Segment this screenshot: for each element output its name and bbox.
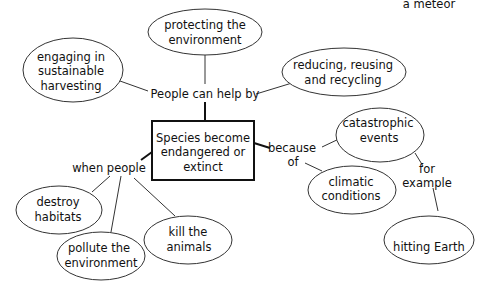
connector-reducing — [256, 83, 292, 94]
linker-for: for — [419, 162, 435, 176]
node-catastrophic-events: catastrophic events — [336, 108, 424, 162]
node-text: habitats — [35, 210, 82, 224]
node-text: pollute the — [68, 241, 130, 255]
node-text: hitting Earth — [393, 240, 465, 254]
node-text: sustainable — [38, 64, 104, 78]
node-kill-animals: kill the animals — [144, 216, 232, 264]
node-text: environment — [168, 33, 242, 47]
connector-because-to-climatic — [305, 163, 322, 171]
node-text: animals — [167, 240, 212, 254]
node-destroy-habitats: destroy habitats — [16, 186, 102, 234]
node-protecting-environment: protecting the environment — [148, 9, 262, 55]
connector-when-to-pollute — [111, 176, 121, 232]
linker-example: example — [402, 176, 452, 190]
linker-because: because — [268, 141, 316, 155]
node-text: events — [360, 131, 399, 145]
node-text: catastrophic — [342, 116, 413, 130]
central-text: extinct — [183, 160, 223, 174]
concept-map: protecting the environment engaging in s… — [0, 0, 489, 292]
linker-people-can-help-by: People can help by — [151, 87, 260, 101]
linker-when-people: when people — [72, 161, 146, 175]
node-text: kill the — [169, 225, 208, 239]
node-text: conditions — [321, 189, 380, 203]
connector-when-to-destroy — [92, 176, 110, 192]
node-text: climatic — [329, 175, 374, 189]
node-text: harvesting — [40, 79, 101, 93]
node-text: engaging in — [37, 50, 105, 64]
node-text: a meteor — [403, 0, 456, 11]
central-text: Species become — [156, 131, 250, 145]
connector-engaging — [120, 81, 148, 91]
connector-for-to-meteor — [433, 188, 438, 211]
node-text: environment — [64, 256, 138, 270]
connector-when-to-kill — [134, 178, 175, 216]
central-concept-box: Species become endangered or extinct — [152, 121, 254, 180]
node-text: destroy — [36, 195, 79, 209]
node-pollute-environment: pollute the environment — [57, 232, 145, 280]
linker-of: of — [287, 155, 299, 169]
node-text: protecting the — [164, 18, 246, 32]
node-engaging-harvesting: engaging in sustainable harvesting — [23, 38, 123, 102]
central-text: endangered or — [161, 145, 246, 159]
node-text: reducing, reusing — [293, 58, 393, 72]
connector-central-to-when — [141, 152, 152, 160]
node-reducing-recycling: reducing, reusing and recycling — [282, 48, 406, 96]
node-climatic-conditions: climatic conditions — [308, 166, 396, 214]
node-text: and recycling — [304, 73, 381, 87]
